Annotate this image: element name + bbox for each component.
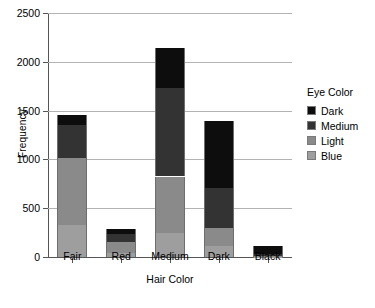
legend-item-medium: Medium <box>307 118 375 133</box>
bar-segment-medium-dark <box>155 48 185 87</box>
legend-item-dark: Dark <box>307 103 375 118</box>
bar-segment-fair-medium <box>57 125 87 158</box>
bar-segment-fair-dark <box>57 115 87 125</box>
legend: Eye Color DarkMediumLightBlue <box>307 86 375 163</box>
bar-segment-red-medium <box>106 234 136 242</box>
bar-fair <box>57 115 87 257</box>
gridline <box>48 13 292 14</box>
bar-segment-dark-medium <box>204 188 234 228</box>
bar-segment-red-dark <box>106 229 136 234</box>
y-tick-label: 2500 <box>6 8 40 18</box>
legend-swatch-light-icon <box>307 136 316 145</box>
y-tick-mark <box>43 208 48 209</box>
bar-segment-dark-light <box>204 228 234 246</box>
y-tick-label: 1500 <box>6 106 40 116</box>
legend-label: Blue <box>321 150 342 162</box>
legend-label: Medium <box>321 120 358 132</box>
y-tick-mark <box>43 13 48 14</box>
y-tick-label: 500 <box>6 203 40 213</box>
plot-area <box>48 13 292 258</box>
y-tick-mark <box>43 159 48 160</box>
legend-label: Dark <box>321 105 343 117</box>
y-tick-mark <box>43 111 48 112</box>
bar-dark <box>204 121 234 257</box>
y-tick-label: 1000 <box>6 154 40 164</box>
x-tick-label-black: Black <box>228 250 308 262</box>
stacked-bar-chart: Frequency 05001000150020002500 Eye Color… <box>0 0 375 308</box>
y-tick-mark <box>43 62 48 63</box>
legend-swatch-dark-icon <box>307 106 316 115</box>
bar-segment-fair-light <box>57 158 87 225</box>
bar-segment-medium-light <box>155 177 185 234</box>
legend-entries: DarkMediumLightBlue <box>307 103 375 163</box>
bar-medium <box>155 48 185 257</box>
legend-title: Eye Color <box>307 86 375 98</box>
y-axis-line <box>48 13 49 258</box>
bar-segment-medium-medium <box>155 88 185 177</box>
legend-swatch-medium-icon <box>307 121 316 130</box>
y-tick-label: 2000 <box>6 57 40 67</box>
x-axis-title: Hair Color <box>48 273 292 285</box>
legend-item-blue: Blue <box>307 148 375 163</box>
legend-label: Light <box>321 135 344 147</box>
bar-segment-dark-dark <box>204 121 234 187</box>
legend-item-light: Light <box>307 133 375 148</box>
legend-swatch-blue-icon <box>307 151 316 160</box>
